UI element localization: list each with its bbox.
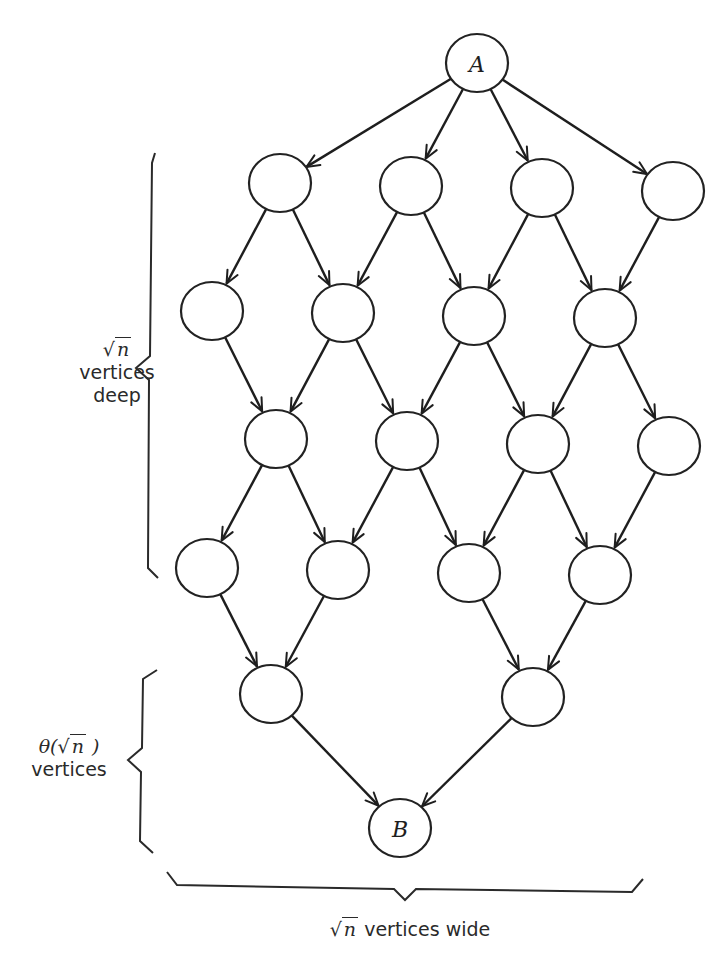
node-r4c3	[569, 546, 631, 604]
vertex-circle	[245, 410, 307, 468]
edge-r1c2-r2c3	[555, 214, 592, 290]
vertex-circle	[438, 544, 500, 602]
vertex-circle	[574, 289, 636, 347]
vertex-circle	[181, 282, 243, 340]
vertex-circle	[376, 412, 438, 470]
edge-r5c0-B	[291, 715, 378, 806]
vertex-circle	[249, 154, 311, 212]
edge-r3c2-r4c2	[484, 470, 525, 546]
edge-r3c1-r4c2	[419, 467, 455, 545]
theta-brace	[128, 670, 157, 853]
radicand: n	[70, 734, 86, 757]
node-r3c2	[507, 415, 569, 473]
vertex-label: B	[391, 817, 408, 842]
node-r3c3	[638, 417, 700, 475]
node-r4c0	[176, 539, 238, 597]
depth-label-line3: deep	[62, 384, 172, 407]
node-r5c0	[240, 665, 302, 723]
edge-r1c0-r2c0	[227, 209, 267, 284]
node-r3c0	[245, 410, 307, 468]
sqrt-symbol: √	[58, 735, 70, 757]
edge-r2c1-r3c0	[291, 339, 330, 412]
depth-sqrt-n: √n	[62, 338, 172, 361]
nodes-layer: AB	[176, 34, 704, 857]
node-r4c1	[307, 541, 369, 599]
sqrt-symbol: √	[330, 918, 342, 940]
dag-diagram: AB	[0, 0, 724, 955]
theta-label-line2: vertices	[14, 758, 124, 781]
node-r1c1	[380, 157, 442, 215]
width-annotation: √n vertices wide	[300, 918, 520, 941]
node-r4c2	[438, 544, 500, 602]
edge-A-r1c0	[306, 78, 452, 167]
node-r1c2	[511, 159, 573, 217]
node-r2c1	[312, 284, 374, 342]
edge-r1c0-r2c1	[293, 209, 330, 285]
sqrt-symbol: √	[103, 338, 115, 360]
edge-A-r1c2	[490, 89, 527, 161]
vertex-circle	[443, 287, 505, 345]
edge-r2c0-r3c0	[225, 337, 262, 411]
theta-expression: θ(√n )	[14, 735, 124, 758]
vertex-circle	[507, 415, 569, 473]
vertex-circle	[312, 284, 374, 342]
node-r2c3	[574, 289, 636, 347]
width-brace	[167, 872, 643, 900]
depth-annotation: √n vertices deep	[62, 338, 172, 407]
node-r1c3	[642, 162, 704, 220]
vertex-circle	[638, 417, 700, 475]
vertex-circle	[642, 162, 704, 220]
theta-prefix: θ(	[39, 735, 58, 757]
node-B: B	[369, 799, 431, 857]
theta-suffix: )	[86, 735, 99, 757]
vertex-circle	[176, 539, 238, 597]
theta-annotation: θ(√n ) vertices	[14, 735, 124, 781]
width-label-text: vertices wide	[358, 918, 490, 940]
node-r3c1	[376, 412, 438, 470]
edge-r2c2-r3c1	[422, 342, 461, 414]
node-A: A	[446, 34, 508, 92]
edge-r4c3-r5c1	[548, 600, 586, 669]
edge-r5c1-B	[422, 717, 512, 806]
edge-r3c3-r4c3	[615, 472, 656, 548]
edge-r2c3-r3c2	[553, 344, 592, 417]
node-r2c0	[181, 282, 243, 340]
edge-r4c1-r5c0	[286, 596, 324, 667]
arrowhead-icon	[306, 155, 320, 167]
radicand: n	[342, 917, 358, 940]
edge-r2c3-r3c3	[618, 344, 655, 418]
edge-r3c0-r4c1	[288, 465, 324, 542]
depth-label-line2: vertices	[62, 361, 172, 384]
edge-r3c2-r4c3	[550, 470, 586, 547]
braces-layer	[128, 153, 643, 900]
edge-r1c2-r2c2	[489, 214, 529, 289]
edge-r3c0-r4c0	[222, 465, 263, 541]
edge-r1c3-r2c3	[620, 217, 660, 291]
vertex-circle	[240, 665, 302, 723]
edge-r4c2-r5c1	[482, 599, 518, 670]
vertex-circle	[569, 546, 631, 604]
vertex-circle	[502, 668, 564, 726]
edge-r2c2-r3c2	[487, 342, 524, 416]
vertex-circle	[380, 157, 442, 215]
vertex-label: A	[467, 52, 485, 77]
radicand: n	[115, 337, 131, 360]
edge-r2c1-r3c1	[356, 339, 393, 413]
edge-r4c0-r5c0	[220, 594, 257, 667]
edge-r1c1-r2c2	[424, 212, 461, 288]
edge-r3c1-r4c1	[353, 467, 394, 543]
node-r5c1	[502, 668, 564, 726]
vertex-circle	[511, 159, 573, 217]
vertex-circle	[307, 541, 369, 599]
node-r1c0	[249, 154, 311, 212]
node-r2c2	[443, 287, 505, 345]
edge-A-r1c3	[501, 79, 647, 174]
edge-A-r1c1	[426, 89, 464, 159]
edge-r1c1-r2c1	[358, 212, 398, 286]
